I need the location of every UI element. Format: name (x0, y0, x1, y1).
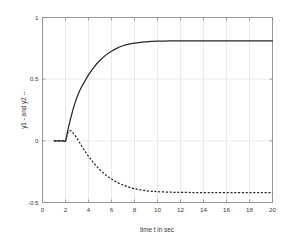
x-tick-label: 10 (154, 206, 161, 213)
y-tick-label: -0.5 (28, 199, 39, 206)
series-line-y1 (54, 41, 273, 142)
x-tick-label: 0 (41, 206, 45, 213)
x-tick-label: 20 (269, 206, 276, 213)
chart-plot: 02468101214161820 -0.500.51 time t in se… (0, 0, 292, 238)
x-axis-title: time t in sec (140, 226, 175, 233)
x-tick-label: 18 (246, 206, 253, 213)
y-tick-label: 0.5 (30, 75, 39, 82)
x-tick-label: 4 (87, 206, 91, 213)
series-line-y2 (54, 131, 273, 193)
y-tick-labels: -0.500.51 (28, 14, 39, 206)
x-tick-label: 2 (64, 206, 68, 213)
grid-lines (43, 18, 273, 203)
x-tick-label: 6 (110, 206, 114, 213)
y-tick-label: 0 (35, 137, 39, 144)
x-tick-label: 16 (223, 206, 230, 213)
x-tick-label: 14 (200, 206, 207, 213)
y-tick-label: 1 (35, 14, 39, 21)
x-tick-label: 8 (133, 206, 137, 213)
y-axis-title: y1 - and y2 -- (20, 91, 28, 129)
x-tick-labels: 02468101214161820 (41, 206, 277, 213)
x-tick-label: 12 (177, 206, 184, 213)
figure-canvas: 02468101214161820 -0.500.51 time t in se… (0, 0, 292, 238)
data-series (54, 41, 273, 193)
